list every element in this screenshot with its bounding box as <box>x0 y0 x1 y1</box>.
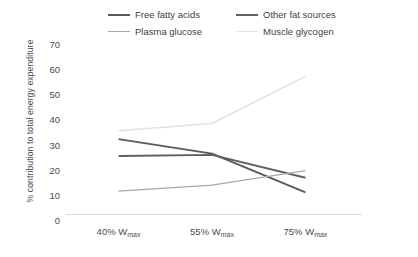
legend-swatch-muscle-glycogen <box>236 31 258 32</box>
x-axis-tick-1: 55% Wmax <box>190 226 234 237</box>
y-axis-tick-60: 60 <box>36 64 60 75</box>
y-axis-tick-20: 20 <box>36 164 60 175</box>
y-axis-tick-10: 10 <box>36 189 60 200</box>
plot-area <box>66 45 358 214</box>
y-axis-tick-30: 30 <box>36 139 60 150</box>
y-axis-tick-0: 0 <box>36 215 60 226</box>
legend-label-free-fatty-acids: Free fatty acids <box>135 10 200 20</box>
chart-legend: Free fatty acids Other fat sources Plasm… <box>108 6 358 40</box>
line-chart: Free fatty acids Other fat sources Plasm… <box>0 0 418 257</box>
series-line-muscle-glycogen <box>119 76 306 130</box>
series-line-free-fatty-acids <box>119 139 306 192</box>
y-axis-tick-40: 40 <box>36 114 60 125</box>
legend-item-other-fat-sources: Other fat sources <box>236 10 364 20</box>
series-lines <box>66 45 358 214</box>
legend-swatch-free-fatty-acids <box>108 14 130 16</box>
y-axis-title: % contribution to total energy expenditu… <box>25 33 35 209</box>
x-axis-tick-0: 40% Wmax <box>97 226 141 237</box>
legend-swatch-plasma-glucose <box>108 31 130 32</box>
legend-label-plasma-glucose: Plasma glucose <box>135 27 202 37</box>
x-axis-tick-labels: 40% Wmax55% Wmax75% Wmax <box>66 226 358 242</box>
legend-label-muscle-glycogen: Muscle glycogen <box>263 27 334 37</box>
x-axis-line <box>66 214 362 215</box>
legend-item-muscle-glycogen: Muscle glycogen <box>236 27 364 37</box>
legend-item-free-fatty-acids: Free fatty acids <box>108 10 236 20</box>
y-axis-tick-70: 70 <box>36 39 60 50</box>
legend-label-other-fat-sources: Other fat sources <box>263 10 336 20</box>
legend-swatch-other-fat-sources <box>236 14 258 16</box>
y-axis-tick-labels: 706050403020100 <box>36 44 60 220</box>
legend-item-plasma-glucose: Plasma glucose <box>108 27 236 37</box>
y-axis-tick-50: 50 <box>36 89 60 100</box>
x-axis-tick-2: 75% Wmax <box>284 226 328 237</box>
